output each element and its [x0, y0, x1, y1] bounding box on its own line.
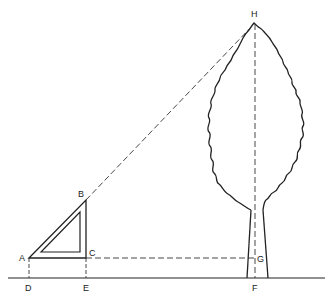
- tree-trunk-left: [247, 210, 251, 278]
- label-d: D: [25, 283, 32, 293]
- tree-height-diagram: A B C D E F G H: [0, 0, 335, 299]
- set-square-inner: [41, 212, 80, 252]
- label-f: F: [252, 283, 258, 293]
- label-e: E: [83, 283, 89, 293]
- set-square-outer: [29, 200, 86, 258]
- tree-trunk-right: [263, 210, 268, 278]
- label-b: B: [78, 189, 84, 199]
- label-a: A: [19, 253, 25, 263]
- label-g: G: [257, 254, 264, 264]
- label-h: H: [251, 9, 258, 19]
- label-c: C: [89, 248, 96, 258]
- sight-line-bh: [86, 24, 254, 200]
- tree-crown: [208, 23, 304, 210]
